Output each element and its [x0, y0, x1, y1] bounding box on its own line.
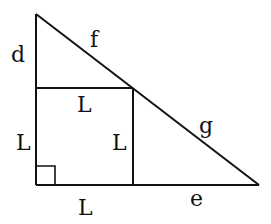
label-g: g — [199, 113, 213, 138]
right-angle-marker — [37, 166, 55, 185]
label-square-right: L — [112, 130, 127, 155]
label-square-bottom: L — [78, 195, 93, 220]
label-e: e — [190, 186, 203, 211]
label-square-top: L — [77, 92, 92, 117]
triangle-diagram: d f g e L L L L — [0, 0, 271, 224]
label-square-left: L — [16, 130, 31, 155]
hypotenuse — [36, 14, 259, 185]
label-d: d — [11, 42, 25, 67]
label-f: f — [90, 27, 100, 52]
